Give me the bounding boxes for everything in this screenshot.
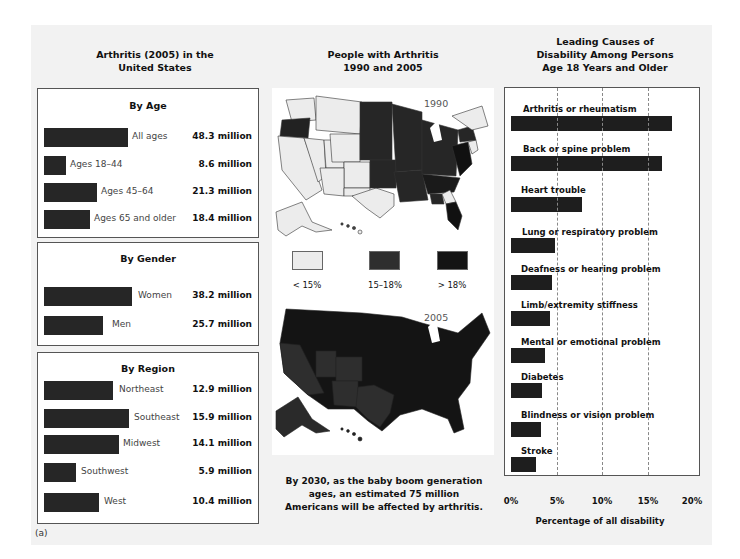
legend-label-mid: 15–18% <box>355 280 415 290</box>
cause-label: Diabetes <box>521 372 563 382</box>
legend-swatch-high <box>437 251 468 270</box>
row-label: Midwest <box>123 438 160 448</box>
row-label: Women <box>138 290 172 300</box>
row-value: 8.6 million <box>199 159 252 169</box>
by-gender-panel: By Gender Women 38.2 million Men 25.7 mi… <box>37 242 259 346</box>
region-bar-southwest <box>44 463 76 482</box>
region-row-southwest: Southwest 5.9 million <box>44 463 252 483</box>
right-section-title: Leading Causes of Disability Among Perso… <box>500 35 710 74</box>
cause-label: Arthritis or rheumatism <box>523 104 637 114</box>
age-bar-18-44 <box>44 156 66 175</box>
row-value: 21.3 million <box>192 186 252 196</box>
cause-label: Heart trouble <box>521 185 586 195</box>
cause-label: Mental or emotional problem <box>521 337 661 347</box>
by-age-title: By Age <box>38 100 258 111</box>
x-tick-5: 5% <box>542 496 572 506</box>
by-gender-title: By Gender <box>38 253 258 264</box>
row-value: 18.4 million <box>192 213 252 223</box>
row-value: 10.4 million <box>192 496 252 506</box>
right-title-line2: Disability Among Persons <box>500 48 710 61</box>
age-bar-all <box>44 128 128 147</box>
legend-swatch-mid <box>369 251 400 270</box>
middle-section-title: People with Arthritis 1990 and 2005 <box>272 48 494 74</box>
age-bar-45-64 <box>44 183 97 202</box>
age-row-18-44: Ages 18–44 8.6 million <box>44 156 252 176</box>
map-2005-label: 2005 <box>424 312 448 323</box>
row-label: West <box>104 496 126 506</box>
age-row-all: All ages 48.3 million <box>44 128 252 148</box>
x-tick-10: 10% <box>587 496 617 506</box>
left-title-line2: United States <box>40 61 270 74</box>
gender-bar-women <box>44 287 132 306</box>
cause-label: Blindness or vision problem <box>521 410 654 420</box>
map-1990-label: 1990 <box>424 98 448 109</box>
region-bar-west <box>44 493 99 512</box>
map-2005 <box>272 303 494 448</box>
cause-bar-blindness <box>511 422 541 437</box>
age-bar-65-plus <box>44 210 90 229</box>
by-region-panel: By Region Northeast 12.9 million Southea… <box>37 352 259 524</box>
cause-label: Lung or respiratory problem <box>522 227 658 237</box>
x-tick-20: 20% <box>677 496 707 506</box>
row-value: 48.3 million <box>192 131 252 141</box>
middle-title-line1: People with Arthritis <box>272 48 494 61</box>
middle-title-line2: 1990 and 2005 <box>272 61 494 74</box>
gender-row-women: Women 38.2 million <box>44 287 252 307</box>
region-row-midwest: Midwest 14.1 million <box>44 435 252 455</box>
cause-bar-deafness <box>511 275 552 290</box>
region-bar-southeast <box>44 409 129 428</box>
right-title-line1: Leading Causes of <box>500 35 710 48</box>
region-row-southeast: Southeast 15.9 million <box>44 409 252 429</box>
row-label: Southeast <box>134 412 179 422</box>
by-age-panel: By Age All ages 48.3 million Ages 18–44 … <box>37 88 259 238</box>
caption-line3: Americans will be affected by arthritis. <box>275 501 493 514</box>
row-value: 15.9 million <box>192 412 252 422</box>
row-value: 25.7 million <box>192 319 252 329</box>
cause-bar-mental <box>511 348 545 363</box>
row-label: Ages 45–64 <box>101 186 153 196</box>
cause-bar-back <box>511 156 662 171</box>
row-value: 38.2 million <box>192 290 252 300</box>
x-tick-15: 15% <box>633 496 663 506</box>
cause-label: Back or spine problem <box>523 144 630 154</box>
row-label: Men <box>112 319 131 329</box>
region-row-northeast: Northeast 12.9 million <box>44 381 252 401</box>
figure-label: (a) <box>35 528 48 538</box>
legend-label-high: > 18% <box>422 280 482 290</box>
by-region-title: By Region <box>38 363 258 374</box>
caption-line1: By 2030, as the baby boom generation <box>275 475 493 488</box>
legend-swatch-low <box>292 251 323 270</box>
x-axis-title: Percentage of all disability <box>500 516 700 526</box>
left-title-line1: Arthritis (2005) in the <box>40 48 270 61</box>
cause-bar-heart <box>511 197 582 212</box>
cause-label: Limb/extremity stiffness <box>521 300 638 310</box>
gender-bar-men <box>44 316 103 335</box>
region-row-west: West 10.4 million <box>44 493 252 513</box>
cause-bar-limb <box>511 311 550 326</box>
region-bar-northeast <box>44 381 113 400</box>
cause-bar-stroke <box>511 457 536 472</box>
map-1990 <box>272 90 494 240</box>
cause-label: Stroke <box>521 446 552 456</box>
age-row-65-plus: Ages 65 and older 18.4 million <box>44 210 252 230</box>
row-label: Northeast <box>119 384 163 394</box>
left-section-title: Arthritis (2005) in the United States <box>40 48 270 74</box>
row-label: All ages <box>132 131 167 141</box>
map-caption: By 2030, as the baby boom generation age… <box>275 475 493 514</box>
region-bar-midwest <box>44 435 119 454</box>
x-tick-0: 0% <box>496 496 526 506</box>
age-row-45-64: Ages 45–64 21.3 million <box>44 183 252 203</box>
gender-row-men: Men 25.7 million <box>44 316 252 336</box>
cause-bar-diabetes <box>511 383 542 398</box>
row-value: 5.9 million <box>199 466 252 476</box>
legend-label-low: < 15% <box>277 280 337 290</box>
caption-line2: ages, an estimated 75 million <box>275 488 493 501</box>
cause-label: Deafness or hearing problem <box>521 264 661 274</box>
row-label: Southwest <box>81 466 128 476</box>
row-label: Ages 18–44 <box>70 159 122 169</box>
row-value: 12.9 million <box>192 384 252 394</box>
cause-bar-lung <box>511 238 555 253</box>
right-title-line3: Age 18 Years and Older <box>500 61 710 74</box>
row-value: 14.1 million <box>192 438 252 448</box>
row-label: Ages 65 and older <box>94 213 176 223</box>
